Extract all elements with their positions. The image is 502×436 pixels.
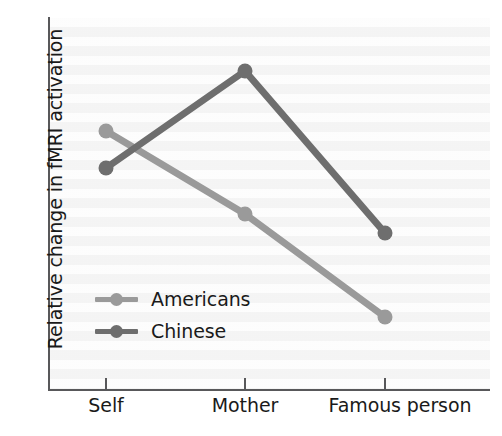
legend-marker-americans — [110, 293, 123, 306]
x-axis-tick-mother — [244, 378, 246, 390]
data-point-chinese-famous-person — [378, 226, 393, 241]
legend-item-chinese: Chinese — [95, 315, 250, 347]
x-axis-label-famous-person: Famous person — [310, 394, 490, 416]
legend-swatch-americans — [95, 291, 138, 307]
x-axis-label-self: Self — [56, 394, 156, 416]
x-axis-tick-self — [105, 378, 107, 390]
x-axis-tick-famous-person — [384, 378, 386, 390]
data-point-americans-famous-person — [378, 310, 393, 325]
data-point-americans-mother — [238, 207, 253, 222]
legend-label-chinese: Chinese — [151, 320, 226, 342]
chart-figure: Relative change in fMRI activation Self … — [0, 0, 502, 436]
data-point-americans-self — [99, 124, 114, 139]
legend-item-americans: Americans — [95, 283, 250, 315]
legend: Americans Chinese — [95, 283, 250, 347]
data-point-chinese-mother — [238, 64, 253, 79]
y-axis-title: Relative change in fMRI activation — [44, 0, 66, 384]
legend-marker-chinese — [110, 325, 123, 338]
x-axis-label-mother: Mother — [195, 394, 295, 416]
data-point-chinese-self — [99, 161, 114, 176]
legend-swatch-chinese — [95, 323, 138, 339]
legend-label-americans: Americans — [151, 288, 250, 310]
x-axis-line — [48, 389, 490, 391]
